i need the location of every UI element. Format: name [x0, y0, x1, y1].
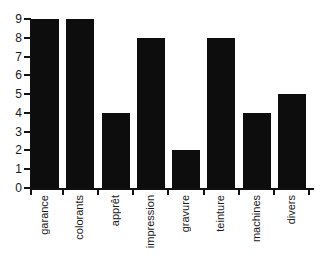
x-axis-category-label: apprêt	[110, 195, 121, 226]
x-axis-category-label: machines	[251, 195, 262, 242]
x-axis-category-label: gravure	[180, 195, 191, 232]
x-axis-category-label: teinture	[215, 195, 226, 232]
x-axis-category-label: divers	[286, 195, 297, 224]
bar-chart: 0123456789 garancecolorantsapprêtimpress…	[0, 0, 326, 271]
x-axis-category-label: colorants	[74, 195, 85, 240]
bar	[137, 38, 165, 188]
bar	[102, 113, 130, 188]
bar	[207, 38, 235, 188]
bar	[278, 94, 306, 188]
bar	[172, 150, 200, 188]
x-axis-category-label: impression	[145, 195, 156, 248]
bar	[66, 19, 94, 188]
bar	[31, 19, 59, 188]
x-axis-category-label: garance	[39, 195, 50, 235]
bar	[243, 113, 271, 188]
